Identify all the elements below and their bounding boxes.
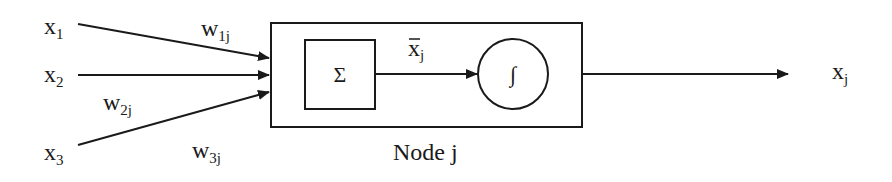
neuron-diagram: x1 x2 x3 w1j w2j w3j Σ xj ∫ Node j xj [0, 0, 892, 182]
input-label-x2: x2 [44, 61, 64, 90]
weight-label-w3j: w3j [192, 137, 221, 166]
svg-text:x3: x3 [44, 139, 64, 168]
svg-text:w2j: w2j [103, 89, 132, 118]
svg-text:w1j: w1j [201, 15, 230, 44]
svg-text:x1: x1 [44, 13, 64, 42]
input-arrow-1 [78, 24, 269, 58]
weight-label-w2j: w2j [103, 89, 132, 118]
node-label: Node j [393, 139, 458, 165]
summation-symbol: Σ [334, 62, 347, 87]
svg-text:w3j: w3j [192, 137, 221, 166]
weight-label-w1j: w1j [201, 15, 230, 44]
svg-text:x2: x2 [44, 61, 64, 90]
svg-text:xj: xj [408, 35, 424, 63]
activation-symbol: ∫ [508, 62, 518, 88]
input-label-x3: x3 [44, 139, 64, 168]
intermediate-label: xj [408, 35, 424, 63]
svg-text:xj: xj [832, 58, 848, 87]
output-label-xj: xj [832, 58, 848, 87]
input-label-x1: x1 [44, 13, 64, 42]
